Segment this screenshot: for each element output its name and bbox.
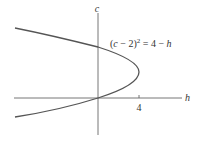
c-axis-label: c [95, 3, 100, 14]
h-axis-label: h [185, 92, 190, 103]
h-tick-label: 4 [137, 102, 142, 113]
equation-label: (c − 2)2 = 4 − h [110, 37, 172, 50]
parabola-diagram: c h 4 (c − 2)2 = 4 − h [0, 0, 202, 144]
